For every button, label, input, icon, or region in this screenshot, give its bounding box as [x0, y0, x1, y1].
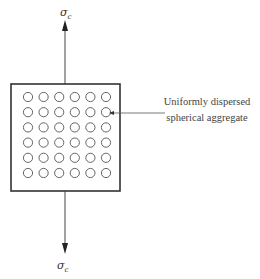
specimen-box	[11, 84, 120, 191]
aggregate-circle	[55, 108, 64, 117]
stress-diagram: σc Uniformly dispersed spherical aggrega…	[0, 0, 260, 279]
aggregate-circle	[101, 108, 110, 117]
aggregate-circle	[86, 138, 95, 147]
aggregate-circle	[70, 92, 79, 101]
aggregate-circle	[70, 123, 79, 132]
aggregate-circle	[86, 153, 95, 162]
top-stress-label: σc	[60, 6, 72, 21]
aggregate-circle	[55, 123, 64, 132]
aggregate-circle	[39, 138, 48, 147]
aggregate-circle	[55, 168, 64, 177]
annotation-line-2: spherical aggregate	[166, 112, 248, 123]
aggregate-circle	[70, 108, 79, 117]
aggregate-circle	[86, 92, 95, 101]
bottom-arrow	[62, 191, 68, 254]
aggregate-circle	[23, 92, 32, 101]
aggregate-circle	[70, 138, 79, 147]
aggregate-circle	[23, 168, 32, 177]
aggregate-circle	[101, 153, 110, 162]
aggregate-circle	[39, 123, 48, 132]
aggregate-circle	[39, 92, 48, 101]
aggregate-circle	[55, 92, 64, 101]
aggregate-circle	[86, 168, 95, 177]
aggregate-circle	[39, 108, 48, 117]
top-arrow	[62, 20, 68, 84]
aggregate-circle	[39, 168, 48, 177]
aggregate-circle	[70, 168, 79, 177]
annotation-leader	[109, 111, 165, 115]
aggregate-circle	[101, 123, 110, 132]
annotation-line-1: Uniformly dispersed	[164, 96, 251, 107]
aggregate-circle	[55, 153, 64, 162]
aggregate-circle	[86, 108, 95, 117]
aggregate-circle	[23, 153, 32, 162]
bottom-stress-label: σc	[57, 259, 69, 274]
aggregate-circle	[23, 108, 32, 117]
aggregate-circle	[55, 138, 64, 147]
aggregate-circle	[23, 123, 32, 132]
aggregate-circle	[23, 138, 32, 147]
aggregate-circle	[70, 153, 79, 162]
aggregate-circle	[101, 92, 110, 101]
aggregate-grid	[23, 92, 110, 177]
aggregate-circle	[101, 138, 110, 147]
aggregate-circle	[101, 168, 110, 177]
aggregate-circle	[39, 153, 48, 162]
aggregate-circle	[86, 123, 95, 132]
